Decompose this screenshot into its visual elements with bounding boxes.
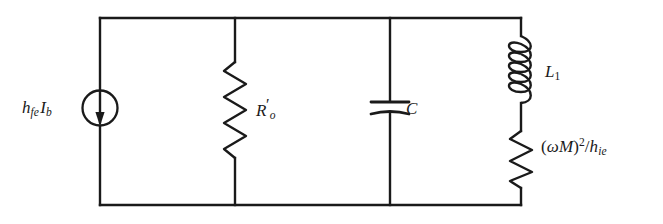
reflected-omega: ω — [547, 137, 559, 156]
frame-wires — [100, 18, 521, 205]
resistor-output-label: R′o — [256, 97, 275, 122]
capacitor-label: C — [406, 100, 417, 117]
current-source-symbol — [83, 91, 118, 127]
resistor-reflected-label: (ωM)2/hie — [541, 137, 607, 158]
inductor-label-base: L — [545, 62, 555, 81]
resistor-output-label-base: R — [256, 101, 266, 120]
circuit-diagram: hfeIb R′o C L1 (ωM)2/hie — [0, 0, 663, 224]
resistor-output-zigzag — [224, 62, 246, 158]
inductor-resistor-branch — [509, 18, 532, 205]
resistor-output-branch — [224, 18, 246, 205]
current-source-label-h-sub: fe — [31, 106, 39, 119]
capacitor-label-base: C — [406, 99, 417, 118]
inductor-label-sub: 1 — [555, 70, 561, 83]
capacitor-branch — [371, 18, 409, 205]
current-source-label-h: h — [22, 98, 31, 117]
current-source-label-i-sub: b — [46, 106, 52, 119]
current-source-label: hfeIb — [22, 99, 52, 119]
reflected-h-sub: ie — [598, 145, 606, 158]
inductor-coil-loop-lower — [509, 74, 531, 103]
resistor-reflected-zigzag — [510, 131, 532, 188]
resistor-output-label-sub: o — [270, 109, 276, 122]
circuit-schematic-canvas — [0, 0, 663, 224]
reflected-m: M — [559, 137, 573, 156]
inductor-label: L1 — [545, 63, 560, 83]
reflected-h: h — [590, 137, 599, 156]
